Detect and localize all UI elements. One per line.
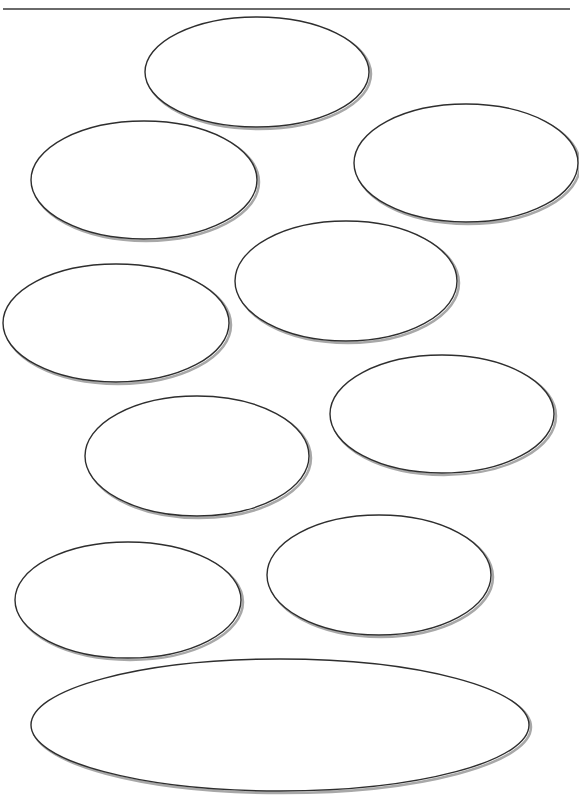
oval-outline [330,355,554,473]
oval-outline [267,515,491,635]
oval-10 [31,659,531,793]
oval-9 [15,542,243,660]
worksheet-page: p [0,0,579,801]
oval-outline [31,121,257,239]
oval-outline [85,396,309,516]
oval-outline [15,542,241,658]
oval-outline [235,221,457,341]
oval-outline [354,104,578,222]
oval-6 [330,355,556,475]
oval-4 [235,221,459,343]
oval-3 [354,104,579,224]
ovals-canvas [0,0,579,801]
oval-1 [145,17,371,129]
oval-8 [267,515,493,637]
oval-7 [85,396,311,518]
oval-outline [31,659,529,791]
oval-outline [3,264,229,382]
oval-2 [31,121,259,241]
oval-5 [3,264,231,384]
oval-outline [145,17,369,127]
